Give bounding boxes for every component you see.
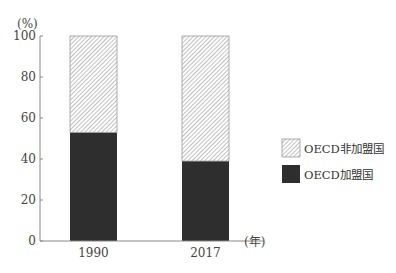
y-tick-label: 80: [21, 70, 36, 84]
segment-non-oecd: [70, 36, 117, 132]
segment-oecd: [70, 132, 117, 241]
bar-1990: [70, 36, 117, 241]
x-tick-label: 2017: [190, 246, 221, 260]
legend-label-oecd: OECD加盟国: [304, 168, 373, 182]
stacked-bar-chart: (%) 020406080100 19902017 (年) OECD非加盟国 O…: [0, 0, 396, 273]
y-tick-label: 0: [28, 234, 36, 248]
x-tick-label: 1990: [78, 246, 109, 260]
legend: OECD非加盟国 OECD加盟国: [282, 139, 384, 183]
solid-swatch-icon: [282, 165, 300, 183]
legend-item-non-oecd: OECD非加盟国: [282, 139, 384, 157]
y-tick-label: 40: [21, 152, 36, 166]
hatch-swatch-icon: [282, 139, 300, 157]
x-axis-unit: (年): [244, 235, 265, 249]
y-axis: 020406080100: [13, 29, 43, 248]
segment-oecd: [182, 161, 229, 241]
bar-2017: [182, 36, 229, 241]
y-tick-label: 60: [21, 111, 36, 125]
legend-item-oecd: OECD加盟国: [282, 165, 373, 183]
bars: [70, 36, 229, 241]
y-tick-label: 100: [13, 29, 36, 43]
legend-label-non-oecd: OECD非加盟国: [304, 142, 384, 156]
segment-non-oecd: [182, 36, 229, 161]
y-tick-label: 20: [21, 193, 36, 207]
x-axis: 19902017: [40, 241, 263, 260]
